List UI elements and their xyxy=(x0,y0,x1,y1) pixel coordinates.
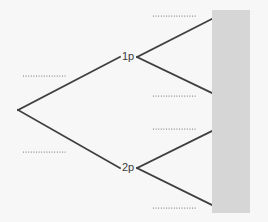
probability-tree-diagram: 1p 2p xyxy=(0,0,268,222)
node-label-1p: 1p xyxy=(122,50,134,62)
outcome-mask-panel xyxy=(212,10,250,213)
node-label-2p: 2p xyxy=(122,161,134,173)
